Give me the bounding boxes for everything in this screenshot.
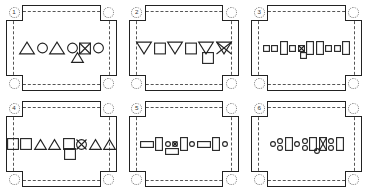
panel-number-badge: 2 — [131, 7, 142, 18]
corner-notch-bl — [129, 171, 146, 187]
shape-2-4-square — [185, 42, 197, 54]
dotted-circle-icon — [103, 103, 114, 114]
shape-4-1-square — [7, 138, 19, 150]
corner-notch-tl: 1 — [6, 5, 23, 21]
corner-notch-tl: 6 — [251, 101, 268, 117]
dotted-circle-icon — [103, 7, 114, 18]
corner-notch-tl: 3 — [251, 5, 268, 21]
panel-number-label: 3 — [258, 9, 261, 15]
panel-number-badge: 3 — [254, 7, 265, 18]
corner-notch-br — [222, 75, 239, 91]
shape-row-6 — [260, 137, 353, 151]
shape-5-5-rect-tall — [180, 137, 188, 151]
dotted-circle-icon — [348, 7, 359, 18]
shape-3-9-square — [334, 45, 341, 52]
shape-6-6-rect-tall — [309, 137, 317, 151]
shape-2-2-square — [154, 42, 166, 54]
dotted-circle-icon — [348, 78, 359, 89]
shape-3-2-square — [271, 45, 278, 52]
shape-4-3-triangle-up — [34, 139, 47, 150]
panel-2[interactable]: 2 — [129, 5, 240, 91]
shape-6-7-rect-tall-marked — [319, 137, 327, 151]
panel-6[interactable]: 6 — [251, 101, 362, 187]
shape-6-8-circle-stack2 — [328, 138, 334, 151]
shape-1-4-circle — [67, 43, 78, 54]
shape-6-4-circle — [294, 141, 300, 147]
shape-6-9-rect-tall — [336, 137, 344, 151]
shape-2-3-triangle-down — [167, 42, 183, 55]
panel-3[interactable]: 3 — [251, 5, 362, 91]
shape-row-2 — [138, 42, 231, 55]
shape-3-6-rect-tall — [306, 41, 314, 55]
dotted-circle-icon — [226, 78, 237, 89]
corner-notch-br — [345, 75, 362, 91]
panel-4[interactable]: 4 — [6, 101, 117, 187]
panel-number-badge: 5 — [131, 103, 142, 114]
panel-number-label: 1 — [12, 9, 15, 15]
shape-2-1-triangle-down — [136, 42, 152, 55]
shape-3-10-rect-tall — [342, 41, 350, 55]
shape-5-8-rect-tall — [212, 137, 220, 151]
shape-6-2-circle-stack2 — [277, 138, 283, 151]
shape-5-4-circle-marked — [172, 141, 178, 147]
corner-notch-bl — [251, 171, 268, 187]
dotted-circle-icon — [103, 174, 114, 185]
corner-notch-bl — [129, 75, 146, 91]
dotted-circle-icon — [131, 78, 142, 89]
corner-notch-bl — [6, 171, 23, 187]
shape-5-6-circle — [189, 141, 195, 147]
corner-notch-tl: 5 — [129, 101, 146, 117]
dotted-circle-icon — [226, 103, 237, 114]
shape-6-1-circle — [270, 141, 276, 147]
panel-number-badge: 6 — [254, 103, 265, 114]
corner-notch-br — [345, 171, 362, 187]
shape-3-7-rect-tall — [316, 41, 324, 55]
corner-notch-bl — [6, 75, 23, 91]
shape-1-3-triangle-up — [49, 42, 65, 55]
shape-row-1 — [15, 42, 108, 55]
dotted-circle-icon — [348, 174, 359, 185]
shape-4-6-circle-marked — [76, 139, 87, 150]
corner-notch-tr — [222, 101, 239, 117]
dotted-circle-icon — [254, 78, 265, 89]
shape-6-5-circle-stack2 — [302, 138, 308, 151]
shape-5-9-circle — [222, 141, 228, 147]
shape-6-3-rect-tall — [285, 137, 293, 151]
shape-2-6-triangle-down-marked — [216, 42, 232, 55]
corner-notch-tr — [222, 5, 239, 21]
corner-notch-tr — [100, 101, 117, 117]
shape-3-5-square-marked — [298, 45, 305, 52]
shape-3-3-rect-tall — [280, 41, 288, 55]
corner-notch-br — [100, 75, 117, 91]
shape-3-8-square — [325, 45, 332, 52]
dotted-circle-icon — [254, 174, 265, 185]
shape-row-4 — [15, 138, 108, 150]
panel-1[interactable]: 1 — [6, 5, 117, 91]
shape-5-2-rect-tall — [155, 137, 163, 151]
dotted-circle-icon — [226, 7, 237, 18]
panel-grid: 123456 — [0, 0, 368, 192]
corner-notch-bl — [251, 75, 268, 91]
corner-notch-tr — [100, 5, 117, 21]
dotted-circle-icon — [9, 174, 20, 185]
panel-cell-2: 2 — [123, 0, 246, 96]
shape-1-5-square-marked — [79, 42, 91, 54]
shape-row-5 — [138, 137, 231, 151]
corner-notch-tl: 4 — [6, 101, 23, 117]
panel-5[interactable]: 5 — [129, 101, 240, 187]
panel-number-label: 5 — [135, 105, 138, 111]
shape-1-2-circle — [37, 43, 48, 54]
corner-notch-tl: 2 — [129, 5, 146, 21]
dotted-circle-icon — [103, 78, 114, 89]
shape-1-6-circle — [93, 43, 104, 54]
shape-row-3 — [260, 41, 353, 55]
shape-4-7-triangle-up — [89, 139, 102, 150]
panel-number-label: 6 — [258, 105, 261, 111]
shape-4-4-triangle-up — [48, 139, 61, 150]
panel-cell-3: 3 — [245, 0, 368, 96]
panel-cell-4: 4 — [0, 96, 123, 192]
shape-3-4-square — [289, 45, 296, 52]
panel-cell-1: 1 — [0, 0, 123, 96]
shape-5-7-rect-wide — [197, 141, 211, 148]
shape-4-8-triangle-up — [103, 139, 116, 150]
